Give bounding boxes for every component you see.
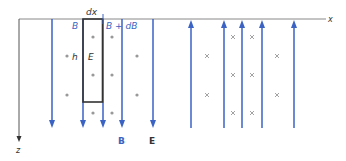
x-axis-label: x [327, 15, 333, 24]
b-left-label: B [72, 21, 78, 31]
downward-arrowheads [49, 120, 156, 128]
e-loop-label: E [88, 52, 94, 62]
b-plus-db-label: B + dB [106, 21, 137, 31]
z-axis-arrow-icon [17, 136, 22, 142]
h-label: h [72, 52, 78, 62]
upward-field-lines [191, 27, 294, 128]
legend-e-label: E [149, 136, 155, 146]
z-axis [17, 19, 22, 142]
dx-label: dx [86, 7, 98, 17]
upward-arrowheads [188, 20, 297, 28]
em-wave-field-diagram: dx B B + dB h E B E x z [0, 0, 346, 161]
z-axis-label: z [15, 146, 21, 155]
legend-b-label: B [118, 136, 125, 146]
